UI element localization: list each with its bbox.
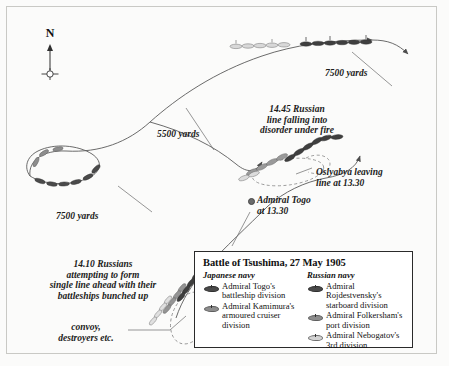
ship-group-russian-van bbox=[284, 134, 344, 163]
ship-group-togo-battleships bbox=[300, 35, 372, 46]
ship-group-kamimura-cruisers bbox=[230, 39, 290, 49]
ship-group-togo-loop-far bbox=[32, 146, 64, 167]
annotation-1445-russian-disorder: 14.45 Russian line falling into disorder… bbox=[238, 104, 356, 136]
distance-label-5500: 5500 yards bbox=[157, 129, 200, 140]
legend-title: Battle of Tsushima, 27 May 1905 bbox=[203, 257, 405, 268]
annotation-1410-russians-forming-line: 14.10 Russians attempting to form single… bbox=[20, 259, 186, 302]
legend-label-folkersham-port: Admiral Folkersham's port division bbox=[326, 311, 405, 330]
legend-entry-kamimura-cruisers: Admiral Kamimura's armoured cruiser divi… bbox=[203, 302, 301, 330]
ship-group-togo-loop bbox=[34, 164, 101, 187]
legend-heading-russian: Russian navy bbox=[307, 270, 405, 280]
legend-heading-japanese: Japanese navy bbox=[203, 270, 301, 280]
legend-label-nebogatov-third: Admiral Nebogatov's 3rd division bbox=[326, 331, 405, 350]
legend-label-rojdestvensky-starboard: Admiral Rojdestvensky's starboard divisi… bbox=[326, 282, 405, 310]
compass-north-label: N bbox=[30, 26, 70, 41]
legend-entry-rojdestvensky-starboard: Admiral Rojdestvensky's starboard divisi… bbox=[307, 282, 405, 310]
annotation-convoy-destroyers: convoy, destroyers etc. bbox=[44, 322, 128, 343]
legend-label-kamimura-cruisers: Admiral Kamimura's armoured cruiser divi… bbox=[222, 302, 301, 330]
legend-box: Battle of Tsushima, 27 May 1905 Japanese… bbox=[194, 251, 413, 348]
legend-label-togo-battleships: Admiral Togo's battleship division bbox=[222, 282, 301, 301]
legend-entry-togo-battleships: Admiral Togo's battleship division bbox=[203, 282, 301, 301]
annotation-oslyabya-leaving-line: Oslyabya leaving line at 13.30 bbox=[316, 167, 420, 188]
ship-symbol-mid-icon bbox=[307, 313, 323, 322]
legend-entry-nebogatov-third: Admiral Nebogatov's 3rd division bbox=[307, 331, 405, 350]
distance-label-7500-lower: 7500 yards bbox=[56, 211, 99, 222]
legend-column-japanese: Japanese navy Admiral Togo's battleship … bbox=[203, 270, 301, 351]
compass: N bbox=[30, 26, 70, 82]
ship-symbol-dark-icon bbox=[307, 284, 323, 293]
ship-symbol-mid-icon bbox=[203, 304, 219, 313]
battle-map: N 7500 yards 5500 yards 7500 yards 14.45… bbox=[0, 0, 449, 366]
annotation-admiral-togo-1330: Admiral Togo at 13.30 bbox=[257, 195, 349, 216]
legend-entry-folkersham-port: Admiral Folkersham's port division bbox=[307, 311, 405, 330]
ship-symbol-light-icon bbox=[307, 333, 323, 342]
admiral-togo-position-marker bbox=[248, 198, 255, 205]
legend-column-russian: Russian navy Admiral Rojdestvensky's sta… bbox=[307, 270, 405, 351]
distance-label-7500-upper: 7500 yards bbox=[325, 68, 368, 79]
ship-symbol-dark-icon bbox=[203, 284, 219, 293]
